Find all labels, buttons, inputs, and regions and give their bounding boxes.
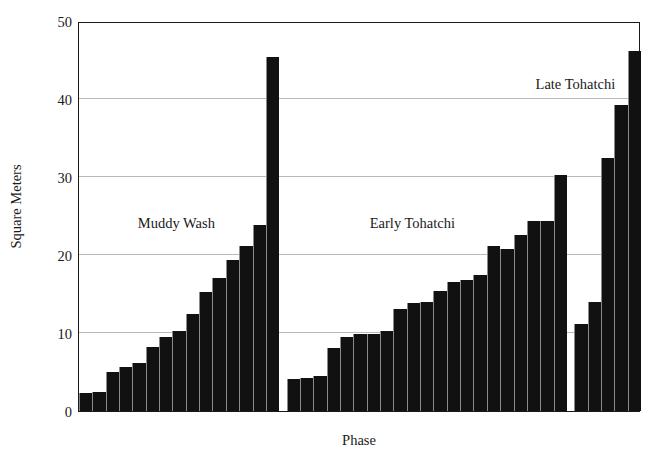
bar	[473, 275, 486, 411]
bar	[367, 334, 380, 411]
y-tick-label: 30	[38, 171, 72, 186]
y-tick-label: 10	[38, 327, 72, 342]
bar	[172, 331, 185, 411]
bar	[106, 372, 119, 411]
bar	[146, 347, 159, 411]
bar	[393, 309, 406, 411]
y-tick-label: 40	[38, 93, 72, 108]
bar	[487, 246, 500, 411]
x-axis-label: Phase	[78, 432, 640, 449]
bar	[159, 337, 172, 411]
bar	[433, 291, 446, 411]
bar	[199, 292, 212, 411]
bar	[340, 337, 353, 411]
group-annotation: Early Tohatchi	[367, 215, 458, 232]
y-tick-label: 0	[38, 405, 72, 420]
y-axis-tick-labels: 01020304050	[34, 0, 72, 462]
bar	[253, 225, 266, 411]
bar	[79, 393, 92, 411]
bar	[420, 302, 433, 411]
bar	[132, 363, 145, 411]
bar	[353, 334, 366, 411]
bar	[628, 51, 641, 411]
bar	[92, 392, 105, 412]
bar	[300, 378, 313, 411]
bar	[614, 105, 627, 411]
bar	[500, 249, 513, 411]
bar	[407, 303, 420, 411]
bar	[186, 314, 199, 412]
bar	[226, 260, 239, 411]
bar	[588, 302, 601, 411]
y-axis-label-text: Square Meters	[8, 164, 25, 248]
bar	[460, 280, 473, 411]
y-tick-label: 20	[38, 249, 72, 264]
bar	[527, 221, 540, 411]
y-tick-label: 50	[38, 15, 72, 30]
bar	[287, 379, 300, 411]
bar	[574, 324, 587, 411]
bar	[212, 278, 225, 411]
bar	[447, 282, 460, 411]
bar	[601, 158, 614, 412]
bar	[119, 367, 132, 411]
bar	[327, 348, 340, 411]
bar	[554, 175, 567, 411]
bar	[266, 57, 279, 411]
y-axis-label: Square Meters	[6, 0, 26, 412]
bar	[540, 221, 553, 411]
bar	[380, 331, 393, 411]
group-annotation: Muddy Wash	[135, 215, 218, 232]
bar	[313, 376, 326, 411]
bar	[239, 246, 252, 411]
bar-chart-figure: Square Meters 01020304050 Phase Muddy Wa…	[0, 0, 656, 462]
group-annotation: Late Tohatchi	[533, 76, 619, 93]
bar	[514, 235, 527, 411]
